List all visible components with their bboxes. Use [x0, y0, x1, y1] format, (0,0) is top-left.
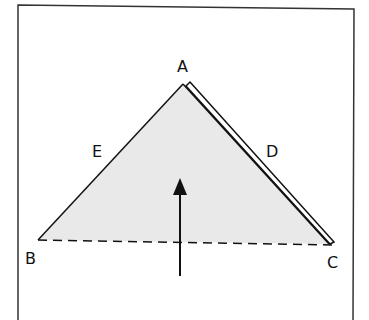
folding-diagram: A E D B C	[0, 0, 369, 320]
label-d: D	[266, 142, 278, 161]
label-c: C	[327, 253, 338, 272]
label-e: E	[92, 142, 102, 161]
label-a: A	[177, 57, 188, 76]
triangle	[38, 84, 329, 244]
label-b: B	[25, 249, 36, 268]
